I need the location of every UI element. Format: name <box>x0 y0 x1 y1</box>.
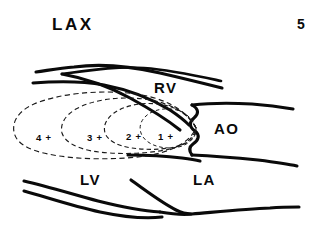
anatomy-drawing <box>0 0 316 237</box>
anterior-mitral-leaflet <box>128 155 200 161</box>
page-number: 5 <box>297 17 305 31</box>
jet-grade-label-4plus: 4 + <box>36 133 52 143</box>
lv-posterior-wall-inner <box>24 191 162 218</box>
aortic-valve-cusps <box>190 105 198 155</box>
figure-root: LAX 5 RV AO LV LA 4 + 3 + 2 + 1 + <box>0 0 316 237</box>
jet-grade-label-2plus: 2 + <box>126 132 142 142</box>
lower-wall-group <box>24 155 299 218</box>
aorta-inferior-wall <box>192 155 297 166</box>
aortic-root-group <box>190 103 297 166</box>
aorta-superior-wall <box>192 103 293 109</box>
chamber-label-rv: RV <box>154 80 177 95</box>
jet-contour-group <box>14 92 196 159</box>
chamber-label-ao: AO <box>214 121 239 136</box>
jet-contour-1plus <box>140 109 196 148</box>
chamber-label-lv: LV <box>80 172 101 187</box>
jet-grade-label-3plus: 3 + <box>87 133 103 143</box>
chamber-label-la: LA <box>193 172 216 187</box>
view-label-lax: LAX <box>52 16 94 33</box>
jet-grade-label-1plus: 1 + <box>158 132 174 142</box>
